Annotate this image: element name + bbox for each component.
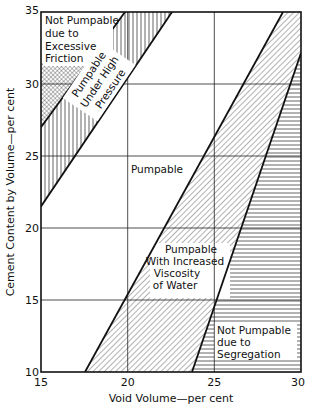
x-tick-labels: 15 20 25 30 [34,376,305,389]
svg-text:of Water: of Water [153,279,198,291]
y-tick: 10 [25,366,39,379]
x-tick: 20 [121,376,135,389]
y-tick: 15 [25,294,39,307]
y-tick-labels: 10 15 20 25 30 35 [25,4,39,379]
svg-text:With Increased: With Increased [146,255,224,267]
svg-text:due to: due to [45,27,79,39]
x-tick: 30 [291,376,305,389]
y-axis-label: Cement Content by Volume—per cent [4,87,17,296]
y-tick: 35 [25,4,39,17]
svg-text:Viscosity: Viscosity [154,267,200,279]
svg-text:Not Pumpable: Not Pumpable [45,14,119,26]
svg-text:Segregation: Segregation [217,348,281,360]
y-tick: 25 [25,150,39,163]
svg-text:Friction: Friction [45,52,83,64]
svg-text:Pumpable: Pumpable [165,243,217,255]
svg-text:Not Pumpable: Not Pumpable [217,324,291,336]
svg-text:due to: due to [217,336,251,348]
x-tick: 25 [207,376,221,389]
y-tick: 30 [25,78,39,91]
label-pumpable: Pumpable [131,163,183,175]
y-tick: 20 [25,222,39,235]
pumpability-chart: 15 20 25 30 10 15 20 25 30 35 Void Volum… [0,0,314,407]
svg-text:Excessive: Excessive [45,40,96,52]
x-axis-label: Void Volume—per cent [109,392,234,405]
